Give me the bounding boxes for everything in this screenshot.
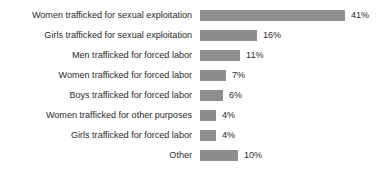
bar-chart: Women trafficked for sexual exploitation…: [0, 0, 382, 171]
chart-row: Boys trafficked for forced labor 6%: [0, 85, 382, 105]
bar: [200, 50, 240, 61]
value-label: 10%: [244, 150, 262, 161]
bar: [200, 110, 216, 121]
value-label: 7%: [232, 70, 245, 81]
chart-row: Girls trafficked for sexual exploitation…: [0, 25, 382, 45]
bar-zone: 6%: [200, 90, 242, 101]
bar: [200, 90, 223, 101]
chart-row: Women trafficked for forced labor 7%: [0, 65, 382, 85]
bar-zone: 16%: [200, 30, 281, 41]
category-label: Men trafficked for forced labor: [0, 50, 192, 61]
category-label: Girls trafficked for sexual exploitation: [0, 30, 192, 41]
category-label: Women trafficked for other purposes: [0, 110, 192, 121]
bar: [200, 10, 345, 21]
bar-zone: 11%: [200, 50, 264, 61]
bar-zone: 4%: [200, 130, 235, 141]
category-label: Other: [0, 150, 192, 161]
chart-row: Men trafficked for forced labor 11%: [0, 45, 382, 65]
bar-zone: 4%: [200, 110, 235, 121]
chart-row: Women trafficked for other purposes 4%: [0, 105, 382, 125]
bar-zone: 41%: [200, 10, 369, 21]
category-label: Girls trafficked for forced labor: [0, 130, 192, 141]
bar-zone: 10%: [200, 150, 262, 161]
category-label: Women trafficked for forced labor: [0, 70, 192, 81]
chart-row: Girls trafficked for forced labor 4%: [0, 125, 382, 145]
value-label: 4%: [222, 130, 235, 141]
bar-zone: 7%: [200, 70, 245, 81]
bar: [200, 70, 226, 81]
chart-row: Women trafficked for sexual exploitation…: [0, 5, 382, 25]
value-label: 4%: [222, 110, 235, 121]
bar: [200, 150, 238, 161]
chart-row: Other 10%: [0, 145, 382, 165]
value-label: 41%: [351, 10, 369, 21]
bar: [200, 130, 216, 141]
value-label: 6%: [229, 90, 242, 101]
bar: [200, 30, 257, 41]
value-label: 11%: [246, 50, 264, 61]
category-label: Boys trafficked for forced labor: [0, 90, 192, 101]
value-label: 16%: [263, 30, 281, 41]
category-label: Women trafficked for sexual exploitation: [0, 10, 192, 21]
